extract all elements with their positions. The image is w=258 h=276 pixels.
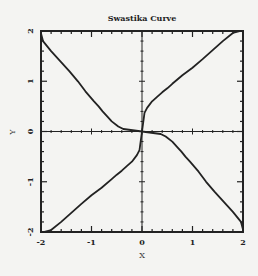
x-tick-label: 2 <box>240 237 246 247</box>
x-tick-label: -1 <box>87 237 96 247</box>
y-tick-label: 2 <box>25 28 35 34</box>
x-axis-tick-labels: -2-1012 <box>37 237 246 247</box>
y-axis-label: Y <box>8 129 17 136</box>
x-tick-label: 0 <box>139 237 145 247</box>
chart-title: Swastika Curve <box>108 13 177 23</box>
y-tick-label: 1 <box>25 78 35 84</box>
x-tick-label: 1 <box>190 237 196 247</box>
curve-branch-upper-left <box>41 34 142 132</box>
plot-area <box>41 31 243 232</box>
curve-branch-lower-left <box>44 132 143 233</box>
x-tick-label: -2 <box>37 237 46 247</box>
y-axis-tick-labels: -2-1012 <box>25 28 35 236</box>
x-axis-label: X <box>139 251 145 260</box>
y-tick-label: -1 <box>25 177 35 186</box>
y-tick-label: 0 <box>25 128 35 134</box>
swastika-curve-chart: Swastika Curve -2-1012 -2-1012 X Y <box>0 0 258 276</box>
curve-branch-upper-right <box>142 31 241 132</box>
y-tick-label: -2 <box>25 228 35 237</box>
curve-branch-lower-right <box>142 132 243 230</box>
